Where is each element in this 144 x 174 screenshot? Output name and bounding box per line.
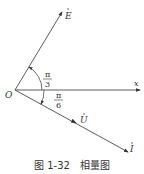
upper-angle-den: 3 — [45, 80, 50, 89]
origin-label: O — [5, 90, 13, 100]
phasor-e — [15, 12, 62, 90]
i-dot — [131, 142, 132, 143]
i-label: I — [129, 144, 134, 154]
x-axis-label: x — [134, 79, 139, 88]
phasor-diagram: O x E U I π 3 π 6 — [0, 0, 144, 174]
u-dot — [83, 113, 84, 114]
angle-arc-upper — [29, 67, 42, 90]
e-label: E — [64, 11, 72, 21]
lower-angle-num: π — [56, 91, 61, 100]
upper-angle-num: π — [45, 70, 50, 79]
phasor-i — [15, 90, 128, 152]
angle-arc-lower — [41, 90, 44, 104]
figure-caption: 图 1-32 相量图 — [0, 157, 144, 172]
u-label: U — [80, 115, 88, 125]
e-dot — [67, 8, 68, 9]
lower-angle-den: 6 — [56, 101, 61, 110]
